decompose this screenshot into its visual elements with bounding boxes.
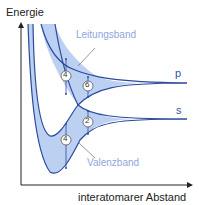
valence-band-label: Valenzband [87, 158, 139, 168]
x-axis-label: interatomarer Abstand [78, 192, 186, 203]
s-level-label: s [176, 105, 182, 116]
count-valence-left: 4 [63, 135, 67, 143]
count-conduction-right: 6 [85, 81, 89, 89]
y-axis-label: Energie [6, 7, 44, 18]
count-conduction-left: 4 [63, 71, 67, 79]
p-level-label: p [175, 68, 181, 79]
conduction-band-label: Leitungsband [76, 30, 136, 40]
count-valence-right: 2 [85, 117, 89, 125]
